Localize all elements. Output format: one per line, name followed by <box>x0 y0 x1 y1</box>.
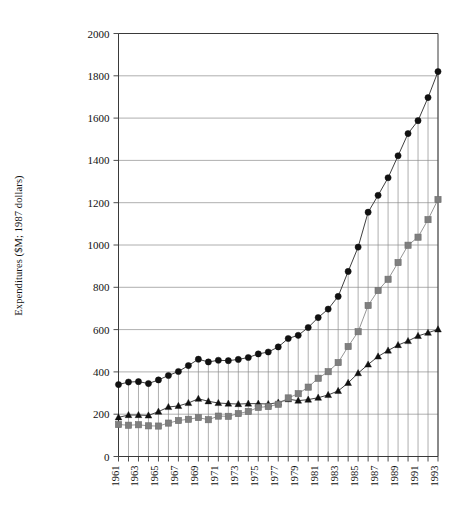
data-point-circle <box>195 356 201 362</box>
series-line-total <box>119 72 439 385</box>
x-tick-label: 1979 <box>289 466 300 487</box>
data-point-circle <box>415 118 421 124</box>
data-point-circle <box>135 379 141 385</box>
data-point-circle <box>425 94 431 100</box>
data-point-circle <box>115 381 121 387</box>
x-tick-label: 1965 <box>149 466 160 487</box>
data-point-circle <box>145 380 151 386</box>
data-point-circle <box>375 192 381 198</box>
data-point-circle <box>255 351 261 357</box>
data-point-square <box>435 196 441 202</box>
data-point-square <box>365 302 371 308</box>
data-point-triangle <box>355 370 362 376</box>
data-point-square <box>405 242 411 248</box>
x-tick-label: 1971 <box>209 466 220 487</box>
data-point-circle <box>155 377 161 383</box>
x-tick-label: 1983 <box>329 466 340 487</box>
y-tick-label: 2000 <box>88 28 111 40</box>
series-total <box>115 68 441 387</box>
data-point-square <box>315 375 321 381</box>
data-point-square <box>305 384 311 390</box>
x-tick-label: 1981 <box>309 466 320 487</box>
x-tickmarks-group <box>119 457 439 462</box>
data-point-triangle <box>405 337 412 343</box>
data-point-circle <box>295 332 301 338</box>
y-tick-label: 400 <box>93 366 110 378</box>
data-point-square <box>325 369 331 375</box>
x-tick-label: 1963 <box>129 466 140 487</box>
data-point-square <box>385 276 391 282</box>
data-point-circle <box>185 362 191 368</box>
data-point-circle <box>405 130 411 136</box>
x-tick-label: 1987 <box>369 466 380 487</box>
data-point-circle <box>315 314 321 320</box>
data-point-square <box>185 416 191 422</box>
data-point-circle <box>215 357 221 363</box>
x-tick-label: 1993 <box>429 466 440 487</box>
x-tick-label: 1969 <box>189 466 200 487</box>
x-tick-label: 1977 <box>269 466 280 487</box>
data-point-square <box>285 395 291 401</box>
data-point-circle <box>205 359 211 365</box>
data-point-square <box>375 287 381 293</box>
x-tick-label: 1961 <box>110 466 121 487</box>
data-point-circle <box>345 268 351 274</box>
data-point-circle <box>225 358 231 364</box>
x-tick-label: 1967 <box>169 466 180 487</box>
data-point-circle <box>355 244 361 250</box>
data-point-square <box>195 414 201 420</box>
data-point-square <box>255 404 261 410</box>
data-point-circle <box>275 344 281 350</box>
y-tick-label: 1800 <box>88 70 111 82</box>
x-tick-label: 1991 <box>409 466 420 487</box>
data-point-triangle <box>195 395 202 401</box>
data-point-triangle <box>435 326 442 332</box>
x-tick-label: 1973 <box>229 466 240 487</box>
y-tick-label: 1600 <box>88 112 111 124</box>
y-tick-labels-group: 0200400600800100012001400160018002000 <box>88 28 111 463</box>
data-point-circle <box>125 379 131 385</box>
data-point-circle <box>435 68 441 74</box>
data-point-circle <box>395 153 401 159</box>
data-point-circle <box>335 293 341 299</box>
data-point-square <box>345 343 351 349</box>
data-point-circle <box>325 306 331 312</box>
x-tick-labels-group: 1961196319651967196919711973197519771979… <box>110 466 441 487</box>
data-point-circle <box>235 356 241 362</box>
data-point-square <box>115 421 121 427</box>
data-point-square <box>235 410 241 416</box>
data-point-circle <box>165 372 171 378</box>
data-point-square <box>165 420 171 426</box>
data-point-circle <box>285 335 291 341</box>
data-point-circle <box>175 368 181 374</box>
x-tick-label: 1975 <box>249 466 260 487</box>
data-point-triangle <box>385 347 392 353</box>
data-point-circle <box>305 324 311 330</box>
data-point-circle <box>365 209 371 215</box>
plot-area: 0200400600800100012001400160018002000 19… <box>0 0 466 525</box>
data-point-triangle <box>155 408 162 414</box>
data-point-square <box>395 259 401 265</box>
data-point-triangle <box>185 399 192 405</box>
data-point-square <box>215 413 221 419</box>
data-point-square <box>205 417 211 423</box>
data-point-square <box>145 423 151 429</box>
data-point-square <box>155 423 161 429</box>
data-point-square <box>135 422 141 428</box>
y-tick-label: 1000 <box>88 239 111 251</box>
chart-page: Expenditures ($M; 1987 dollars) 02004006… <box>0 0 466 525</box>
data-point-square <box>335 359 341 365</box>
data-point-square <box>245 408 251 414</box>
data-point-square <box>415 234 421 240</box>
data-point-circle <box>385 175 391 181</box>
data-point-circle <box>245 354 251 360</box>
x-tick-label: 1985 <box>349 466 360 487</box>
data-point-circle <box>265 349 271 355</box>
data-point-square <box>425 217 431 223</box>
data-point-triangle <box>335 387 342 393</box>
data-point-square <box>275 401 281 407</box>
y-tick-label: 800 <box>93 281 110 293</box>
y-tick-label: 0 <box>104 451 110 463</box>
x-tick-label: 1989 <box>389 466 400 487</box>
data-point-square <box>125 422 131 428</box>
